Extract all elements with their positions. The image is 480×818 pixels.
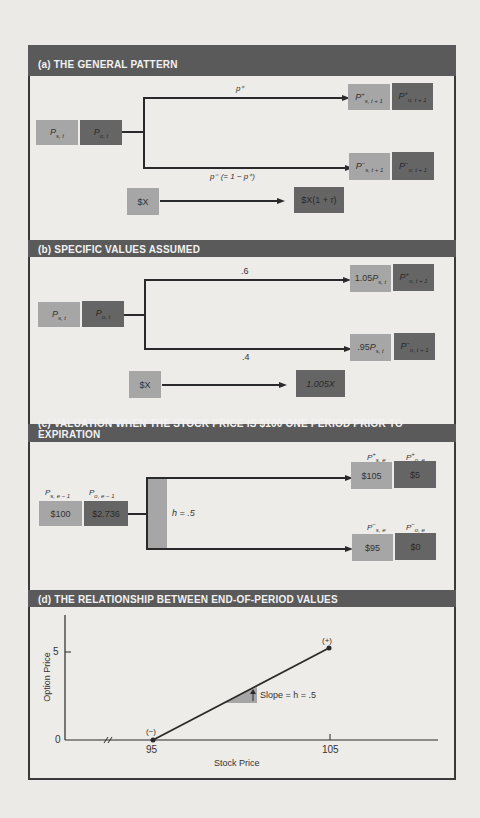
slope-label: Slope = h = .5 <box>260 690 316 700</box>
point-plus <box>327 646 332 651</box>
x-tick-label-105: 105 <box>322 744 339 755</box>
point-plus-label: (+) <box>322 636 332 645</box>
x-tick-label-95: 95 <box>146 744 157 755</box>
x-axis-label: Stock Price <box>214 758 260 768</box>
payoff-chart <box>0 0 480 818</box>
y-tick-label-0: 0 <box>55 734 61 745</box>
y-tick-label-5: 5 <box>53 646 59 657</box>
point-minus-label: (−) <box>146 727 156 736</box>
y-axis-label: Option Price <box>42 647 52 707</box>
point-minus <box>151 738 156 743</box>
